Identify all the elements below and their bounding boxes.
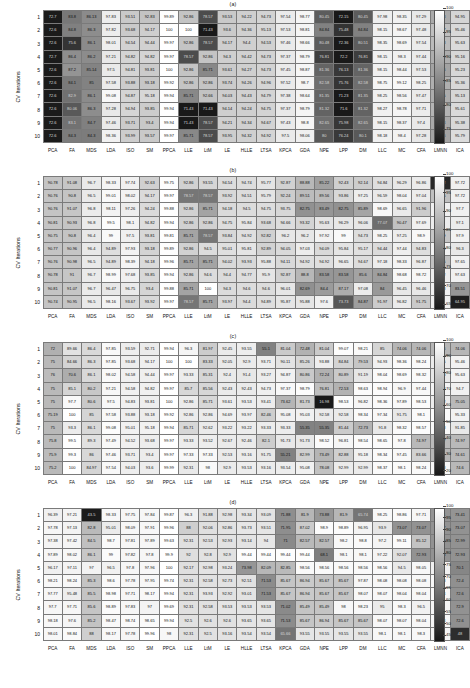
heatmap-cell: 91.75 <box>392 409 411 422</box>
heatmap-cell: 81.36 <box>353 63 372 76</box>
heatmap-cell: 98.17 <box>140 588 159 601</box>
heatmap-cell: 94.96 <box>256 77 275 90</box>
heatmap-cell: 94.89 <box>256 295 275 308</box>
heatmap-cell: 65.66 <box>276 627 295 640</box>
heatmap-cell: 98.81 <box>295 24 314 37</box>
heatmap-cell: 97.54 <box>411 37 430 50</box>
heatmap-cell: 97.37 <box>276 103 295 116</box>
heatmap-row: 797.7795.4885.598.9897.7198.1799.9492.31… <box>28 588 470 601</box>
heatmap-cell: 99.88 <box>159 282 178 295</box>
heatmap-cell: 95.88 <box>295 295 314 308</box>
heatmap-cell: 72.48 <box>295 343 314 356</box>
heatmap-cell: 79.53 <box>353 356 372 369</box>
heatmap-cell: 72.6 <box>43 24 62 37</box>
heatmap-cell: 75 <box>43 356 62 369</box>
heatmap-cell: 98.1 <box>334 548 353 561</box>
heatmap-cell: 97.54 <box>276 11 295 24</box>
heatmap-cell: 98.78 <box>392 103 411 116</box>
panel-d: (d) CV Iterations 196.3997.2143.598.3397… <box>0 498 466 664</box>
heatmap-cell: 94.83 <box>121 395 140 408</box>
heatmap-cell: 92.86 <box>179 269 198 282</box>
heatmap-cell: 95.08 <box>276 409 295 422</box>
heatmap-cell: 92.58 <box>198 601 217 614</box>
heatmap-cell: 16.98 <box>314 395 333 408</box>
heatmap-cell: 94.18 <box>140 256 159 269</box>
row-label: 2 <box>28 190 43 203</box>
heatmap-cell: 94.03 <box>218 90 237 103</box>
heatmap-cell: 93.34 <box>237 509 256 522</box>
heatmap-cell: 78.57 <box>179 295 198 308</box>
panel-c-heatmap: 17289.6686.497.8593.5992.7199.9496.381.9… <box>28 342 470 488</box>
heatmap-cell: 97.21 <box>101 50 120 63</box>
heatmap-cell: 98.24 <box>411 356 430 369</box>
panel-a: (a) CV Iterations 172.783.886.1397.8393.… <box>0 0 466 166</box>
heatmap-cell: 94.17 <box>140 190 159 203</box>
heatmap-cell: 97.46 <box>276 37 295 50</box>
heatmap-cell: 98.69 <box>373 203 392 216</box>
heatmap-cell: 94.6 <box>237 282 256 295</box>
heatmap-cell: 98.47 <box>101 614 120 627</box>
heatmap-cell: 94.94 <box>121 103 140 116</box>
heatmap-cell: 85.12 <box>411 535 430 548</box>
heatmap-cell: 97.54 <box>101 461 120 474</box>
heatmap-cell: 97.11 <box>62 561 81 574</box>
heatmap-cell: 92.6 <box>218 614 237 627</box>
heatmap-cell: 84.5 <box>82 535 101 548</box>
heatmap-cell: 94.32 <box>237 129 256 142</box>
heatmap-cell: 95.18 <box>140 90 159 103</box>
heatmap-cell: 93.51 <box>256 522 275 535</box>
heatmap-cell: 92.86 <box>218 522 237 535</box>
heatmap-cell: 99.74 <box>159 575 178 588</box>
heatmap-cell: 98.07 <box>373 588 392 601</box>
row-label: 4 <box>28 50 43 63</box>
heatmap-cell: 85.49 <box>295 601 314 614</box>
heatmap-cell: 90.8 <box>62 190 81 203</box>
heatmap-cell: 98.75 <box>373 77 392 90</box>
heatmap-row: 77593.386.199.0895.0195.1899.9485.7192.6… <box>28 422 470 435</box>
heatmap-cell: 98.86 <box>392 509 411 522</box>
heatmap-cell: 94.82 <box>140 216 159 229</box>
heatmap-cell: 82.8 <box>82 522 101 535</box>
heatmap-cell: 93.3 <box>62 422 81 435</box>
heatmap-cell: 98.07 <box>373 614 392 627</box>
heatmap-cell: 98.36 <box>101 129 120 142</box>
heatmap-cell: 99.3 <box>62 448 81 461</box>
heatmap-cell: 92.93 <box>218 535 237 548</box>
row-label: 1 <box>28 343 43 356</box>
heatmap-cell: 99.97 <box>159 190 178 203</box>
heatmap-cell: 94.93 <box>373 356 392 369</box>
heatmap-cell: 93.65 <box>237 614 256 627</box>
heatmap-cell: 96.75 <box>121 282 140 295</box>
heatmap-cell: 92.07 <box>392 548 411 561</box>
heatmap-cell: 80 <box>314 129 333 142</box>
heatmap-cell: 93.99 <box>121 129 140 142</box>
heatmap-cell: 96.2 <box>295 229 314 242</box>
column-label: ISO <box>121 641 140 654</box>
panel-c: (c) CV Iterations 17289.6686.497.8593.59… <box>0 332 466 498</box>
heatmap-cell: 71.43 <box>198 103 217 116</box>
heatmap-cell: 100 <box>62 409 81 422</box>
column-label: LE <box>218 475 237 488</box>
heatmap-cell: 98.3 <box>392 601 411 614</box>
heatmap-cell: 93.67 <box>121 295 140 308</box>
heatmap-cell: 90.78 <box>43 269 62 282</box>
heatmap-cell: 90.95 <box>62 295 81 308</box>
row-label: 3 <box>28 203 43 216</box>
heatmap-cell: 83.58 <box>314 269 333 282</box>
heatmap-cell: 72.6 <box>43 37 62 50</box>
heatmap-cell: 71.53 <box>276 614 295 627</box>
heatmap-cell: 97.6 <box>62 614 81 627</box>
heatmap-cell: 98.6 <box>101 575 120 588</box>
heatmap-cell: 99.44 <box>256 548 275 561</box>
colorbar-tick-label: 100 <box>446 6 453 10</box>
heatmap-cell: 84.7 <box>82 116 101 129</box>
heatmap-cell: 92.86 <box>179 77 198 90</box>
heatmap-cell: 92.63 <box>140 177 159 190</box>
heatmap-cell: 99.75 <box>159 177 178 190</box>
heatmap-cell: 99 <box>334 229 353 242</box>
heatmap-cell: 94.52 <box>121 435 140 448</box>
heatmap-cell: 86.4 <box>62 50 81 63</box>
heatmap-cell: 98.23 <box>353 601 372 614</box>
column-label: MDS <box>82 143 101 156</box>
heatmap-cell: 81.32 <box>353 103 372 116</box>
